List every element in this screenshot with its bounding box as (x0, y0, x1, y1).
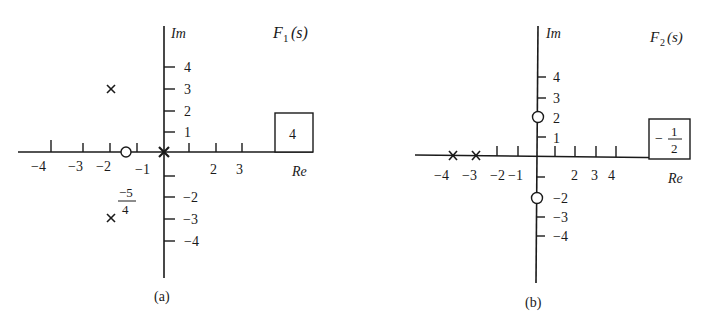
re-tick-label: 2 (210, 162, 217, 177)
im-tick-label: −4 (184, 234, 199, 249)
re-tick-label: −1 (508, 168, 523, 183)
svg-text:1: 1 (671, 124, 678, 139)
re-tick-label: −4 (434, 168, 449, 183)
panel-caption: (a) (154, 289, 170, 305)
imaginary-axis (536, 26, 538, 283)
im-tick-label: 1 (553, 131, 560, 146)
real-ticks (51, 140, 242, 152)
im-tick-label: 4 (553, 70, 560, 85)
im-tick-label: −4 (553, 229, 568, 244)
re-tick-label: −2 (490, 168, 505, 183)
zero-annotation: −5 4 (118, 185, 136, 217)
im-tick-label: 1 (184, 125, 191, 140)
re-tick-label: 2 (571, 168, 578, 183)
im-tick-label: −2 (183, 190, 198, 205)
re-tick-label: −3 (68, 159, 83, 174)
svg-text:2: 2 (671, 141, 678, 156)
svg-text:−: − (655, 131, 663, 146)
im-tick-label: −2 (553, 191, 568, 206)
im-tick-label: 3 (184, 82, 191, 97)
panel-a: −4 −3 −2 −1 2 3 Re 4 3 2 1 −2 −3 −4 Im F… (18, 24, 313, 305)
re-axis-label: Re (667, 171, 683, 186)
im-tick-label: 2 (184, 104, 191, 119)
im-tick-label: 2 (553, 111, 560, 126)
svg-text:(s): (s) (667, 29, 683, 46)
im-tick-label: −3 (553, 210, 568, 225)
svg-text:1: 1 (283, 32, 289, 44)
re-tick-label: 3 (236, 162, 243, 177)
panel-b: −4 −3 −2 −1 2 3 4 Re 4 3 2 1 −2 −3 −4 Im… (415, 26, 690, 311)
zero-marker (121, 147, 131, 157)
im-axis-label: Im (170, 26, 186, 41)
zero-marker (533, 112, 544, 123)
svg-text:F: F (649, 29, 660, 45)
im-axis-label: Im (545, 26, 561, 41)
re-tick-label: 4 (608, 168, 615, 183)
re-tick-label: 3 (591, 168, 598, 183)
svg-text:(s): (s) (291, 24, 308, 42)
svg-text:F: F (272, 24, 283, 41)
svg-text:4: 4 (122, 202, 129, 217)
im-tick-label: 4 (184, 60, 191, 75)
function-label-f1: F 1 (s) (272, 24, 308, 44)
re-tick-label: −1 (135, 162, 150, 177)
re-tick-label: −2 (96, 159, 111, 174)
pole-marker (107, 214, 115, 222)
gain-value: 4 (289, 127, 296, 142)
zero-marker (532, 193, 543, 204)
pole-zero-diagrams: −4 −3 −2 −1 2 3 Re 4 3 2 1 −2 −3 −4 Im F… (0, 0, 710, 329)
function-label-f2: F 2 (s) (649, 29, 683, 48)
re-axis-label: Re (291, 164, 307, 179)
im-tick-label: 3 (553, 91, 560, 106)
re-tick-label: −4 (31, 159, 46, 174)
re-tick-label: −3 (462, 168, 477, 183)
svg-text:2: 2 (660, 37, 665, 48)
im-tick-label: −3 (183, 212, 198, 227)
svg-text:−5: −5 (119, 185, 133, 200)
pole-marker (107, 85, 115, 93)
panel-caption: (b) (525, 295, 542, 311)
